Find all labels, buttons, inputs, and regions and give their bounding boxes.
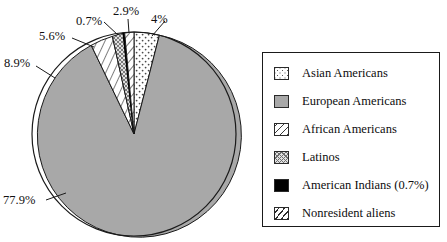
legend-swatch-crosshatch-icon [274,151,289,164]
legend: Asian Americans European Americans Afric… [262,52,440,227]
pie-label-american-indians: 0.7% [76,14,102,29]
legend-item-european-americans: European Americans [263,87,439,115]
legend-item-american-indians: American Indians (0.7%) [263,171,439,199]
legend-label-african-americans: African Americans [302,122,397,137]
pie-label-nonresident-aliens: 2.9% [113,4,139,19]
legend-label-latinos: Latinos [302,150,340,165]
legend-swatch-dots-icon [274,67,289,80]
legend-swatch-diagonal-hatch-2-icon [274,207,289,220]
legend-label-american-indians: American Indians (0.7%) [302,178,429,193]
legend-item-latinos: Latinos [263,143,439,171]
legend-item-nonresident-aliens: Nonresident aliens [263,199,439,227]
legend-item-african-americans: African Americans [263,115,439,143]
legend-swatch-solid-black-icon [274,179,289,192]
legend-swatch-diagonal-hatch-icon [274,123,289,136]
pie-label-asian-americans: 4% [151,12,168,27]
pie-chart-figure: 4% 2.9% 0.7% 5.6% 8.9% 77.9% Asian Ameri… [0,0,447,242]
pie-label-african-americans: 8.9% [4,56,30,71]
legend-label-asian-americans: Asian Americans [302,66,388,81]
legend-swatch-solid-gray-icon [274,95,289,108]
legend-label-nonresident-aliens: Nonresident aliens [302,206,395,221]
legend-item-asian-americans: Asian Americans [263,59,439,87]
legend-label-european-americans: European Americans [302,94,406,109]
pie-chart-area: 4% 2.9% 0.7% 5.6% 8.9% 77.9% [0,0,250,242]
pie-svg [0,0,250,242]
pie-label-latinos: 5.6% [39,29,65,44]
pie-label-european-americans: 77.9% [3,193,35,208]
